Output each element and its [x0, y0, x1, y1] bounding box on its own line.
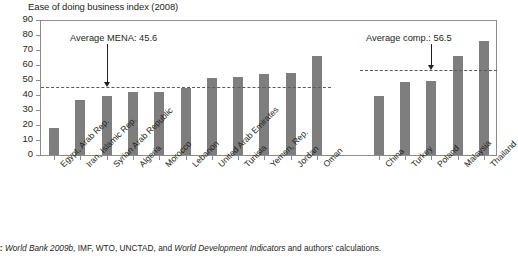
reference-line-comparators: [360, 70, 497, 71]
y-tick-mark: [36, 95, 40, 96]
y-tick-mark: [36, 35, 40, 36]
x-tick: [379, 156, 380, 160]
annotation-comp-arrow-shaft: [431, 44, 432, 66]
y-tick-mark: [36, 140, 40, 141]
bar: [374, 96, 384, 155]
y-tick-label: 40: [22, 88, 33, 99]
x-tick: [458, 156, 459, 160]
bar: [400, 82, 410, 156]
y-tick-label: 0: [28, 148, 33, 159]
bar: [49, 128, 59, 155]
y-tick-mark: [36, 80, 40, 81]
y-tick-label: 20: [22, 118, 33, 129]
y-axis-ticks: 0102030405060708090: [0, 20, 40, 155]
source-italic-2: World Development Indicators: [174, 243, 285, 253]
reference-line-mena: [41, 87, 331, 88]
y-tick-label: 70: [22, 43, 33, 54]
annotation-mena-arrow-head: [104, 82, 110, 87]
source-italic-1: World Bank 2009b,: [5, 243, 76, 253]
x-tick: [186, 156, 187, 160]
y-tick-mark: [36, 155, 40, 156]
source-note: ces: World Bank 2009b, IMF, WTO, UNCTAD,…: [0, 243, 381, 253]
bar: [479, 41, 489, 155]
x-tick: [317, 156, 318, 160]
x-tick: [405, 156, 406, 160]
x-tick: [159, 156, 160, 160]
x-tick: [80, 156, 81, 160]
source-plain-2: and authors' calculations.: [285, 243, 381, 253]
y-tick-label: 90: [22, 13, 33, 24]
x-tick: [133, 156, 134, 160]
source-plain-1: IMF, WTO, UNCTAD, and: [76, 243, 175, 253]
x-tick: [212, 156, 213, 160]
x-tick: [431, 156, 432, 160]
y-tick-label: 80: [22, 28, 33, 39]
y-tick-mark: [36, 110, 40, 111]
x-tick: [107, 156, 108, 160]
y-tick-label: 10: [22, 133, 33, 144]
x-tick: [484, 156, 485, 160]
y-tick-mark: [36, 125, 40, 126]
annotation-comp-label: Average comp.: 56.5: [366, 33, 452, 43]
y-tick-mark: [36, 20, 40, 21]
annotation-comp-arrow-head: [428, 65, 434, 70]
y-tick-mark: [36, 50, 40, 51]
x-tick: [264, 156, 265, 160]
y-tick-label: 30: [22, 103, 33, 114]
x-tick: [238, 156, 239, 160]
y-tick-label: 50: [22, 73, 33, 84]
x-tick: [291, 156, 292, 160]
x-tick: [54, 156, 55, 160]
annotation-mena-label: Average MENA: 45.6: [70, 33, 157, 43]
source-label: ces:: [0, 243, 3, 253]
bar: [312, 56, 322, 155]
annotation-mena-arrow-shaft: [107, 44, 108, 83]
y-tick-mark: [36, 65, 40, 66]
chart-title: Ease of doing business index (2008): [28, 1, 178, 12]
y-tick-label: 60: [22, 58, 33, 69]
